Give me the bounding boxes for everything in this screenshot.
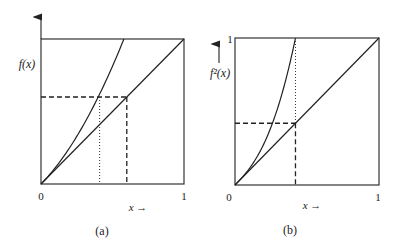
panel-a-diagonal [41, 39, 184, 184]
panel-b-origin-label: 0 [226, 191, 232, 203]
figure: f(x) 0 1 x → (a) 1 f²(x) 0 1 x → (b) [0, 0, 399, 246]
panel-a: f(x) 0 1 x → (a) [19, 17, 187, 238]
panel-b-diagonal [235, 38, 379, 185]
panel-a-x-end-label: 1 [181, 190, 187, 202]
panel-a-curve-f [41, 39, 124, 184]
panel-a-y-label: f(x) [19, 57, 36, 71]
panel-b-x-end-label: 1 [375, 191, 381, 203]
panel-a-x-label: x → [128, 201, 148, 213]
panel-b-y-label: f²(x) [210, 66, 230, 80]
panel-a-origin-label: 0 [38, 190, 44, 202]
panel-b: 1 f²(x) 0 1 x → (b) [210, 33, 381, 237]
panel-b-curve-f2 [235, 38, 295, 185]
panel-b-caption: (b) [283, 223, 297, 237]
panel-a-caption: (a) [95, 224, 108, 238]
panel-b-x-label: x → [302, 199, 322, 211]
panel-b-y-end-label: 1 [227, 33, 233, 45]
